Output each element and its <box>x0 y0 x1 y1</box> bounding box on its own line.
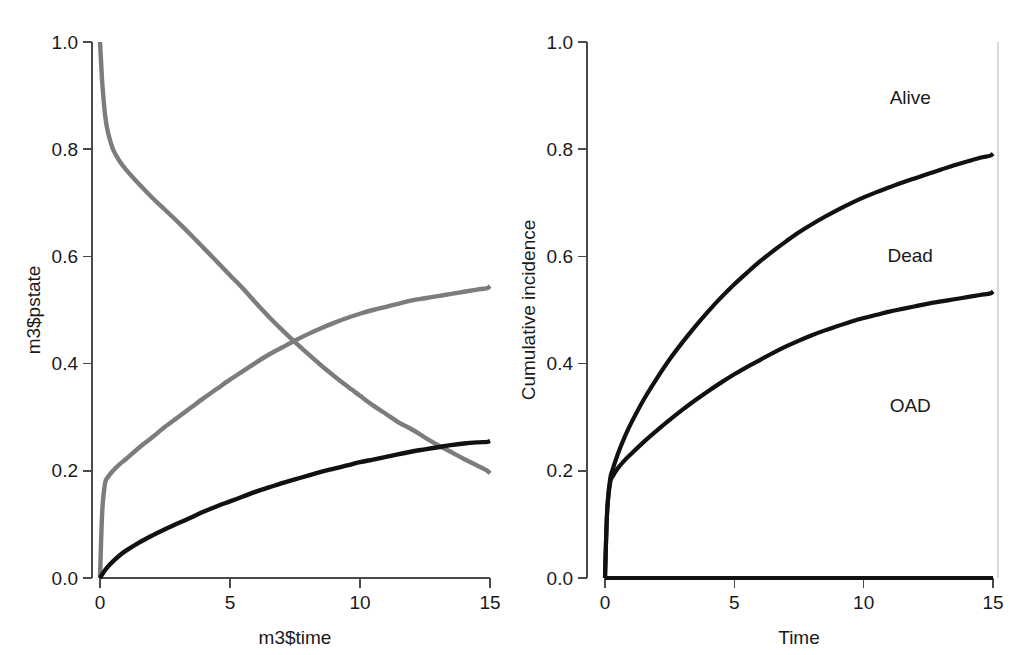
x-tick-label: 15 <box>479 592 500 613</box>
y-tick-label: 0.2 <box>52 460 78 481</box>
y-tick-label: 0.0 <box>547 568 573 589</box>
y-tick-label: 1.0 <box>547 32 573 53</box>
figure-root: 0.00.20.40.60.81.0051015m3$timem3$pstate… <box>0 0 1030 655</box>
y-tick-label: 0.8 <box>547 139 573 160</box>
panel-state-occupancy: 0.00.20.40.60.81.0051015m3$timem3$pstate <box>0 0 515 655</box>
x-tick-label: 0 <box>95 592 106 613</box>
y-tick-label: 0.6 <box>547 246 573 267</box>
curve-label-alive: Alive <box>890 87 931 108</box>
y-tick-label: 0.4 <box>547 353 574 374</box>
series-state-3-black <box>100 441 490 578</box>
x-axis-title: Time <box>778 627 820 648</box>
y-tick-label: 0.6 <box>52 246 78 267</box>
left-plot-canvas: 0.00.20.40.60.81.0051015m3$timem3$pstate <box>0 0 515 655</box>
y-tick-label: 0.0 <box>52 568 78 589</box>
x-tick-label: 15 <box>982 592 1003 613</box>
x-tick-label: 0 <box>600 592 611 613</box>
y-tick-label: 0.4 <box>52 353 79 374</box>
curve-label-dead: Dead <box>888 245 933 266</box>
series-alive-upper <box>605 153 993 578</box>
y-tick-label: 0.2 <box>547 460 573 481</box>
series-state-1-declining <box>100 42 490 473</box>
series-dead-middle <box>605 291 993 578</box>
x-axis-title: m3$time <box>259 627 332 648</box>
panel-cumulative-incidence: 0.00.20.40.60.81.0051015TimeCumulative i… <box>515 0 1030 655</box>
y-axis-title: m3$pstate <box>23 266 44 355</box>
x-tick-label: 10 <box>853 592 874 613</box>
x-tick-label: 5 <box>729 592 740 613</box>
y-axis-title: Cumulative incidence <box>518 220 539 401</box>
y-tick-label: 1.0 <box>52 32 78 53</box>
x-tick-label: 5 <box>225 592 236 613</box>
curve-label-oad: OAD <box>890 395 931 416</box>
y-tick-label: 0.8 <box>52 139 78 160</box>
x-tick-label: 10 <box>349 592 370 613</box>
right-plot-canvas: 0.00.20.40.60.81.0051015TimeCumulative i… <box>515 0 1030 655</box>
